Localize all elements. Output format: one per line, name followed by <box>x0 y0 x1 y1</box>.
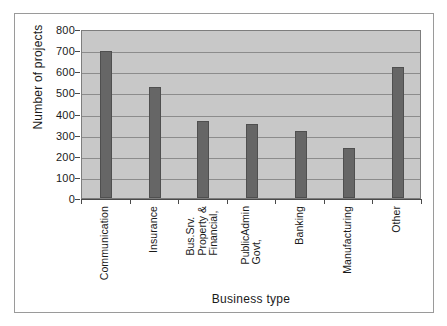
y-axis-tick-label: 100 <box>17 172 75 183</box>
x-axis-title: Business type <box>81 292 421 306</box>
category-label-line: Communication <box>99 206 111 280</box>
category-label-line: Manufacturing <box>342 206 354 274</box>
x-axis-tick <box>178 199 179 204</box>
category-label-line: Property & <box>197 206 209 256</box>
y-axis-tick-label: 600 <box>17 67 75 78</box>
x-axis-category-label: Other <box>391 206 403 233</box>
y-axis-tick-label: 800 <box>17 25 75 36</box>
y-axis-tick-label: 400 <box>17 109 75 120</box>
y-axis-tick-label: 700 <box>17 46 75 57</box>
x-axis-category-label: Financial,Property &Bus.Srv. <box>185 206 220 256</box>
x-axis-category-label: Govt,PublicAdmin <box>240 206 263 264</box>
y-axis-tick-label: 500 <box>17 88 75 99</box>
y-axis-tick-label: 0 <box>17 194 75 205</box>
y-axis-tick-label: 300 <box>17 130 75 141</box>
bar <box>100 51 112 198</box>
y-axis-tick <box>75 72 80 73</box>
y-axis-tick <box>75 115 80 116</box>
bar <box>197 121 209 198</box>
chart-frame: Number of projects 800700600500400300200… <box>14 13 434 313</box>
y-axis-tick-label: 200 <box>17 151 75 162</box>
x-axis-line <box>81 199 421 200</box>
x-axis-category-label: Manufacturing <box>342 206 354 274</box>
y-axis-tick-labels: 8007006005004003002001000 <box>15 30 75 199</box>
gridline <box>82 94 420 95</box>
y-axis-tick <box>75 51 80 52</box>
gridline <box>82 116 420 117</box>
x-axis-tick <box>275 199 276 204</box>
x-axis-tick <box>81 199 82 204</box>
x-axis-category-label: Communication <box>99 206 111 280</box>
y-axis-tick <box>75 30 80 31</box>
x-axis-tick <box>372 199 373 204</box>
category-label-line: Insurance <box>148 206 160 253</box>
gridline <box>82 73 420 74</box>
bar <box>343 148 355 198</box>
category-label-line: PublicAdmin <box>240 206 252 264</box>
category-label-line: Bus.Srv. <box>185 206 197 256</box>
bar <box>246 124 258 198</box>
plot-area <box>81 30 421 199</box>
x-axis-category-labels: CommunicationInsuranceFinancial,Property… <box>81 206 421 288</box>
category-label-line: Govt, <box>251 206 263 264</box>
x-axis-tick <box>227 199 228 204</box>
x-axis-tick <box>324 199 325 204</box>
x-axis-tick <box>130 199 131 204</box>
gridline <box>82 52 420 53</box>
x-axis-category-label: Banking <box>294 206 306 245</box>
y-axis-tick <box>75 178 80 179</box>
bar <box>295 131 307 198</box>
bar <box>149 87 161 198</box>
y-axis-tick <box>75 136 80 137</box>
category-label-line: Other <box>391 206 403 233</box>
bar <box>392 67 404 198</box>
category-label-line: Financial, <box>208 206 220 256</box>
x-axis-tick <box>421 199 422 204</box>
y-axis-tick <box>75 157 80 158</box>
y-axis-tick <box>75 93 80 94</box>
y-axis-tick <box>75 199 80 200</box>
x-axis-category-label: Insurance <box>148 206 160 253</box>
category-label-line: Banking <box>294 206 306 245</box>
